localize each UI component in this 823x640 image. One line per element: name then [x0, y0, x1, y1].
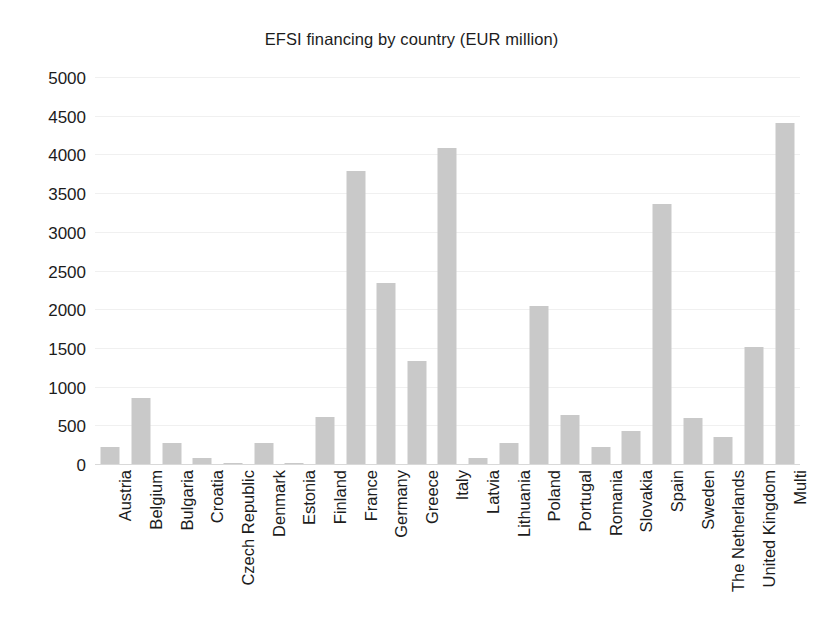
bar[interactable]	[346, 171, 365, 465]
bar[interactable]	[162, 443, 181, 465]
bars-layer	[95, 78, 800, 465]
bar[interactable]	[745, 347, 764, 465]
x-axis-tick-label: Multi	[791, 470, 808, 505]
bar-slot	[647, 78, 678, 465]
bar-slot	[677, 78, 708, 465]
bar-slot	[585, 78, 616, 465]
bar-slot	[187, 78, 218, 465]
x-axis-tick: Latvia	[463, 470, 494, 638]
y-axis-tick-label: 5000	[0, 70, 86, 87]
y-axis: 5000450040003500300025002000150010005000	[0, 78, 86, 465]
bar-slot	[616, 78, 647, 465]
bar[interactable]	[653, 204, 672, 465]
bar-slot	[371, 78, 402, 465]
bar-slot	[739, 78, 770, 465]
y-axis-tick-label: 1500	[0, 340, 86, 357]
x-axis-tick: France	[340, 470, 371, 638]
x-axis-tick: Greece	[402, 470, 433, 638]
x-axis-tick: Belgium	[126, 470, 157, 638]
x-axis-tick: Croatia	[187, 470, 218, 638]
bar[interactable]	[254, 443, 273, 465]
bar[interactable]	[315, 417, 334, 465]
x-axis-tick: Spain	[647, 470, 678, 638]
x-axis-tick: Italy	[432, 470, 463, 638]
bar-slot	[248, 78, 279, 465]
bar-slot	[463, 78, 494, 465]
bar-slot	[432, 78, 463, 465]
y-axis-tick-label: 4000	[0, 147, 86, 164]
x-axis-tick: Romania	[585, 470, 616, 638]
y-axis-tick-label: 500	[0, 418, 86, 435]
chart-title: EFSI financing by country (EUR million)	[0, 30, 823, 49]
bar[interactable]	[407, 361, 426, 465]
y-axis-tick-label: 3500	[0, 186, 86, 203]
bar-slot	[340, 78, 371, 465]
bar-slot	[402, 78, 433, 465]
bar[interactable]	[101, 447, 120, 465]
bar[interactable]	[499, 443, 518, 465]
x-axis-tick: Bulgaria	[156, 470, 187, 638]
bar[interactable]	[530, 306, 549, 465]
bar[interactable]	[377, 283, 396, 465]
x-axis-baseline	[95, 464, 800, 465]
bar-slot	[95, 78, 126, 465]
bar[interactable]	[131, 398, 150, 465]
x-axis: AustriaBelgiumBulgariaCroatiaCzech Repub…	[95, 470, 800, 638]
bar-slot	[156, 78, 187, 465]
bar-slot	[769, 78, 800, 465]
bar[interactable]	[683, 418, 702, 465]
x-axis-tick: Sweden	[677, 470, 708, 638]
x-axis-tick: Slovakia	[616, 470, 647, 638]
y-axis-tick-label: 2000	[0, 302, 86, 319]
x-axis-tick: Austria	[95, 470, 126, 638]
bar-slot	[310, 78, 341, 465]
x-axis-tick: Denmark	[248, 470, 279, 638]
bar-slot	[218, 78, 249, 465]
y-axis-tick-label: 3000	[0, 224, 86, 241]
bar-slot	[555, 78, 586, 465]
bar-slot	[524, 78, 555, 465]
y-axis-tick-label: 4500	[0, 108, 86, 125]
x-axis-tick: Finland	[310, 470, 341, 638]
bar-slot	[493, 78, 524, 465]
x-axis-tick: United Kingdom	[739, 470, 770, 638]
chart-figure: EFSI financing by country (EUR million) …	[0, 0, 823, 640]
bar-slot	[708, 78, 739, 465]
bar[interactable]	[591, 447, 610, 465]
bar[interactable]	[561, 415, 580, 465]
plot-area	[95, 78, 800, 465]
bar[interactable]	[714, 437, 733, 465]
bar[interactable]	[438, 148, 457, 465]
y-axis-tick-label: 2500	[0, 263, 86, 280]
x-axis-tick: The Netherlands	[708, 470, 739, 638]
y-axis-tick-label: 1000	[0, 379, 86, 396]
x-axis-tick: Germany	[371, 470, 402, 638]
x-axis-tick: Lithuania	[493, 470, 524, 638]
x-axis-tick: Multi	[769, 470, 800, 638]
x-axis-tick: Estonia	[279, 470, 310, 638]
bar-slot	[126, 78, 157, 465]
x-axis-tick: Czech Republic	[218, 470, 249, 638]
y-axis-tick-label: 0	[0, 457, 86, 474]
x-axis-tick: Portugal	[555, 470, 586, 638]
x-axis-tick: Poland	[524, 470, 555, 638]
bar[interactable]	[622, 431, 641, 465]
bar-slot	[279, 78, 310, 465]
bar[interactable]	[775, 123, 794, 465]
